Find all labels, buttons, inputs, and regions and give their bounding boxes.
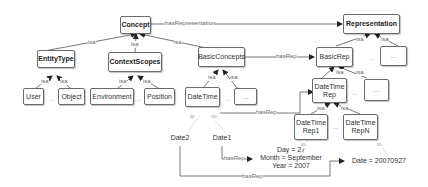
edge-label-has-rep: hasRep (256, 109, 277, 116)
edge-label-isa: isa (131, 41, 139, 48)
node-basic-rep-other: ... (364, 79, 389, 101)
node-position: Position (144, 88, 175, 105)
node-representation-other: ... (380, 46, 407, 66)
edge-label-has-rep: hasRep (276, 53, 297, 60)
ellipsis: ... (225, 96, 230, 102)
node-basic-concepts-other: ... (234, 88, 257, 105)
edge-label-isa: isa (60, 78, 68, 85)
ellipsis: ... (352, 90, 357, 96)
node-date-time-rep: DateTime Rep (312, 78, 347, 103)
edge-label-has-rep: hasRep (242, 173, 263, 180)
ellipsis: ... (333, 124, 338, 130)
value-date-compact: Date = 20070927 (346, 157, 412, 165)
edge-label-isa: isa (208, 74, 216, 81)
node-user: User (23, 88, 44, 105)
edge-label-isa: isa (381, 36, 389, 43)
edge-label-isa: isa (336, 69, 344, 76)
edge-label-isa: isa (356, 69, 364, 76)
edge-label-io: io (212, 113, 217, 120)
node-environment: Environment (90, 88, 134, 105)
edge-label-io: io (377, 141, 382, 148)
node-basic-rep: BasicRep (316, 47, 353, 67)
edge-label-io: io (301, 141, 306, 148)
instance-date2: Date2 (168, 134, 192, 142)
value-date-components: Day = 27 Month = September Year = 2007 (254, 146, 328, 170)
node-representation: Representation (343, 14, 400, 34)
node-object: Object (58, 88, 85, 105)
ellipsis: ... (136, 96, 141, 102)
edge-label-isa: isa (119, 78, 127, 85)
edge-label-isa: isa (356, 36, 364, 43)
edge-label-has-rep: hasRep (224, 155, 245, 162)
node-date-time: DateTime (185, 87, 220, 107)
edge-label-isa: isa (230, 74, 238, 81)
edge-label-isa: isa (341, 105, 349, 112)
edge-label-io: io (190, 113, 195, 120)
edge-label-isa: isa (143, 78, 151, 85)
edge-label-has-representation: hasRepresentation (165, 20, 215, 27)
node-concept: Concept (120, 16, 151, 34)
edge-label-isa: isa (174, 39, 182, 46)
node-basic-concepts: BasicConcepts (198, 47, 245, 67)
instance-date1: Date1 (210, 134, 234, 142)
ontology-diagram: Concept Representation EntityType Contex… (0, 0, 428, 187)
node-context-scopes: ContextScopes (108, 52, 162, 72)
ellipsis: ... (369, 55, 374, 61)
ellipsis: ... (49, 96, 54, 102)
edge-label-isa: isa (41, 78, 49, 85)
node-date-time-repn: DateTime RepN (343, 114, 378, 140)
edge-label-isa: isa (317, 105, 325, 112)
edge-label-isa: isa (88, 39, 96, 46)
node-entity-type: EntityType (37, 50, 75, 68)
node-date-time-rep1: DateTime Rep1 (294, 114, 328, 140)
